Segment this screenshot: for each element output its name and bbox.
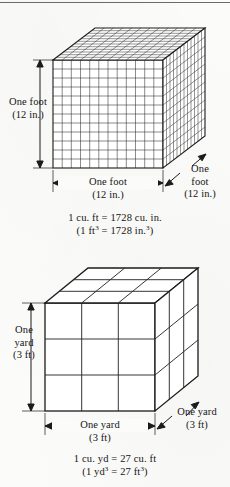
cubic-yard-bottom-label-line1: One yard bbox=[52, 419, 148, 432]
caption-line2: (1 ft3 = 1728 in.3) bbox=[0, 224, 230, 237]
yard-caption-line2-prefix: (1 yd bbox=[82, 466, 105, 477]
cubic-foot-bottom-label-line1: One foot bbox=[58, 176, 158, 189]
yard-caption-line1: 1 cu. yd = 27 cu. ft bbox=[74, 453, 156, 464]
yard-bottom-label-line1: One yard bbox=[80, 419, 120, 430]
cubic-yard-bottom-label-line2: (3 ft) bbox=[52, 432, 148, 445]
cubic-yard-right-label: One yard (3 ft) bbox=[166, 406, 228, 431]
yard-right-label-line2: (3 ft) bbox=[186, 419, 208, 430]
cubic-yard-left-label: One yard (3 ft) bbox=[2, 324, 46, 362]
cubic-yard-caption: 1 cu. yd = 27 cu. ft (1 yd3 = 27 ft3) bbox=[0, 452, 230, 478]
caption-line2-prefix: (1 ft bbox=[77, 225, 96, 236]
caption-line2-middle: = 1728 in. bbox=[99, 225, 146, 236]
bottom-label-line1: One foot bbox=[89, 176, 127, 187]
bottom-label-line2: (12 in.) bbox=[92, 189, 124, 200]
yard-left-label-line1: One bbox=[15, 324, 33, 335]
yard-left-label-line2: yard bbox=[14, 337, 33, 348]
cubic-foot-drawing bbox=[0, 0, 230, 244]
cubic-foot-left-label: One foot (12 in.) bbox=[2, 96, 54, 121]
caption-line2-suffix: ) bbox=[150, 225, 154, 236]
caption-line1: 1 cu. ft = 1728 cu. in. bbox=[68, 212, 162, 223]
yard-front-face bbox=[45, 303, 155, 411]
right-label-line3: (12 in.) bbox=[184, 188, 216, 199]
yard-caption-line2-middle: = 27 ft bbox=[109, 466, 141, 477]
yard-caption-line2: (1 yd3 = 27 ft3) bbox=[0, 465, 230, 478]
figure-page: One foot (12 in.) One foot (12 in.) One … bbox=[0, 0, 230, 487]
left-label-line2: (12 in.) bbox=[12, 109, 44, 120]
cubic-foot-bottom-label-line2: (12 in.) bbox=[58, 189, 158, 202]
right-label-line2: foot bbox=[191, 176, 208, 187]
cubic-foot-caption: 1 cu. ft = 1728 cu. in. (1 ft3 = 1728 in… bbox=[0, 211, 230, 237]
cubic-yard-drawing bbox=[0, 244, 230, 487]
yard-right-label-line1: One yard bbox=[177, 406, 217, 417]
left-label-line1: One foot bbox=[9, 96, 47, 107]
cubic-foot-right-label: One foot (12 in.) bbox=[172, 163, 228, 201]
yard-bottom-label-line2: (3 ft) bbox=[89, 432, 111, 443]
figure-cubic-foot: One foot (12 in.) One foot (12 in.) One … bbox=[0, 0, 230, 244]
right-label-line1: One bbox=[191, 163, 209, 174]
yard-left-label-line3: (3 ft) bbox=[13, 349, 35, 360]
yard-caption-line2-suffix: ) bbox=[144, 466, 148, 477]
figure-cubic-yard: One yard (3 ft) One yard (3 ft) One yard… bbox=[0, 244, 230, 487]
